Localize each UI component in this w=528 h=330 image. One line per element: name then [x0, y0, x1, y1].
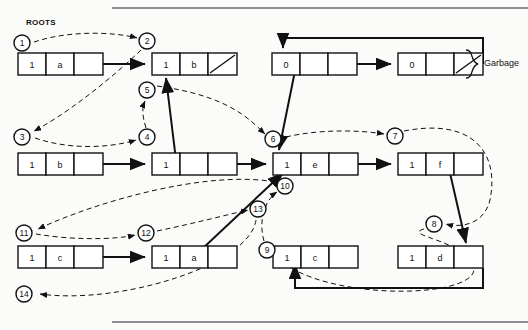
dashed-pointer-m9-to-m10 — [262, 192, 277, 241]
step-marker-10: 10 — [277, 178, 293, 194]
row2-node-e-value-1: 1 — [284, 160, 289, 170]
dashed-pointer-m12-to-m13 — [157, 210, 248, 231]
row4-node-c-cell-3 — [329, 246, 358, 268]
garbage-node-1: 0 — [272, 53, 357, 75]
solid-pointer-mid-row2-cell2-up — [166, 78, 176, 160]
step-marker-13: 13 — [250, 201, 266, 217]
row3-node-a: 1a — [152, 246, 237, 268]
row4-node-d-value-2: d — [437, 253, 442, 263]
row1-node-b: 1b — [152, 53, 237, 75]
step-marker-number-2: 2 — [145, 36, 150, 46]
row4-node-c-value-1: 1 — [284, 253, 289, 263]
garbage-node-1-cell-3 — [328, 53, 357, 75]
row2-node-b: 1b — [18, 153, 103, 175]
garbage-node-2: 0 — [398, 53, 483, 75]
dashed-pointer-m3-to-m4 — [35, 138, 136, 147]
garbage-node-2-value-1: 0 — [409, 60, 414, 70]
step-marker-4: 4 — [139, 129, 155, 145]
step-marker-number-4: 4 — [145, 132, 150, 142]
row3-node-c-cell-3 — [74, 246, 103, 268]
diagram-svg: 1a1b001b11e1f1c1a1c1d 123456789101112131… — [0, 0, 528, 330]
row3-node-c-value-1: 1 — [29, 253, 34, 263]
dashed-pointer-m6-to-m7 — [286, 131, 384, 137]
dashed-pointer-m7-to-m8 — [404, 128, 492, 225]
dashed-pointer-m1-to-m2 — [34, 33, 137, 42]
step-marker-number-1: 1 — [20, 38, 25, 48]
step-marker-number-14: 14 — [19, 289, 29, 299]
row2-node-b-value-2: b — [57, 160, 62, 170]
step-marker-5: 5 — [139, 82, 155, 98]
step-marker-7: 7 — [387, 128, 403, 144]
step-marker-number-5: 5 — [145, 85, 150, 95]
node-layer: 1a1b001b11e1f1c1a1c1d — [18, 53, 483, 268]
step-marker-number-9: 9 — [265, 245, 270, 255]
step-marker-number-3: 3 — [20, 132, 25, 142]
figure-canvas: 1a1b001b11e1f1c1a1c1d 123456789101112131… — [0, 0, 528, 330]
step-marker-number-13: 13 — [253, 204, 263, 214]
row1-node-b-value-2: b — [191, 60, 196, 70]
step-marker-1: 1 — [14, 35, 30, 51]
row2-node-e-value-2: e — [312, 160, 317, 170]
garbage-label: Garbage — [484, 58, 519, 68]
roots-label: ROOTS — [26, 18, 56, 27]
row2-node-middle-cell-2 — [180, 153, 208, 175]
row3-node-a-value-1: 1 — [163, 253, 168, 263]
row1-node-a-value-1: 1 — [29, 60, 34, 70]
row2-node-middle-value-1: 1 — [163, 160, 168, 170]
dashed-pointer-m5-to-m6 — [157, 86, 265, 134]
step-marker-number-7: 7 — [393, 131, 398, 141]
row4-node-d-value-1: 1 — [409, 253, 414, 263]
row3-node-c: 1c — [18, 246, 103, 268]
row1-node-a-cell-3 — [74, 53, 103, 75]
step-marker-12: 12 — [138, 225, 154, 241]
garbage-node-1-cell-2 — [300, 53, 328, 75]
dashed-pointer-m4-to-m5 — [143, 101, 146, 128]
row2-node-f: 1f — [398, 153, 483, 175]
row2-node-e: 1e — [273, 153, 358, 175]
step-marker-8: 8 — [426, 216, 442, 232]
row3-node-a-value-2: a — [191, 253, 196, 263]
row2-node-f-cell-3 — [454, 153, 483, 175]
row4-node-d-cell-3 — [454, 246, 483, 268]
solid-pointer-a-row3-cell3-up — [201, 173, 283, 250]
row1-node-a: 1a — [18, 53, 103, 75]
step-marker-11: 11 — [16, 225, 32, 241]
garbage-node-2-cell-2 — [426, 53, 454, 75]
row3-node-c-value-2: c — [58, 253, 63, 263]
row3-node-a-cell-3 — [208, 246, 237, 268]
step-marker-number-11: 11 — [20, 228, 29, 238]
step-marker-number-10: 10 — [280, 181, 290, 191]
step-marker-14: 14 — [16, 286, 32, 302]
row1-node-a-value-2: a — [57, 60, 62, 70]
dashed-pointer-m11-to-m12 — [36, 234, 135, 239]
step-marker-9: 9 — [259, 242, 275, 258]
step-marker-number-12: 12 — [141, 228, 151, 238]
row2-node-middle-cell-3 — [208, 153, 237, 175]
row2-node-f-value-1: 1 — [409, 160, 414, 170]
row2-node-middle: 1 — [152, 153, 237, 175]
step-marker-3: 3 — [14, 129, 30, 145]
step-marker-number-6: 6 — [271, 134, 276, 144]
row2-node-b-cell-3 — [74, 153, 103, 175]
dashed-pointer-m10-to-m11 — [38, 179, 275, 229]
row4-node-c-value-2: c — [313, 253, 318, 263]
step-marker-6: 6 — [265, 131, 281, 147]
step-marker-number-8: 8 — [432, 219, 437, 229]
garbage-node-1-value-1: 0 — [283, 60, 288, 70]
row2-node-b-value-1: 1 — [29, 160, 34, 170]
row4-node-c: 1c — [273, 246, 358, 268]
row2-node-e-cell-3 — [329, 153, 358, 175]
row1-node-b-value-1: 1 — [163, 60, 168, 70]
row4-node-d: 1d — [398, 246, 483, 268]
step-marker-2: 2 — [139, 33, 155, 49]
